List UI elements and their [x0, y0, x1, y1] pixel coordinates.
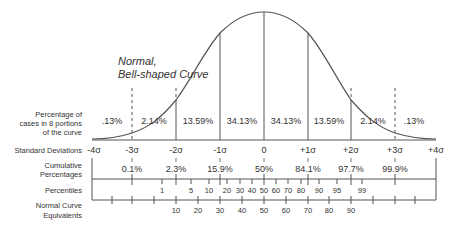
nce-label: 60 [282, 206, 290, 215]
nce-label: 50 [260, 206, 268, 215]
segment-pct: 13.59% [183, 116, 214, 126]
label-percentage-cases-2: cases in 8 portions [19, 119, 82, 128]
percentile-label: 70 [284, 186, 292, 195]
cumulative-pct: 99.9% [382, 164, 408, 174]
percentile-label: 95 [333, 186, 341, 195]
sd-label: -1σ [213, 145, 227, 155]
nce-label: 30 [216, 206, 224, 215]
sd-label: +3σ [387, 145, 403, 155]
nce-label: 70 [304, 206, 312, 215]
percentile-label: 1 [160, 186, 164, 195]
nce-label: 10 [172, 206, 180, 215]
segment-pct: .13% [404, 116, 425, 126]
segment-pct: 13.59% [314, 116, 345, 126]
nce-label: 80 [325, 206, 333, 215]
label-percentiles: Percentiles [45, 186, 82, 195]
label-standard-deviations: Standard Deviations [14, 146, 82, 155]
percentile-label: 60 [272, 186, 280, 195]
cumulative-pct: 50% [255, 164, 273, 174]
label-nce-2: Equivalents [43, 211, 82, 220]
percentile-label: 80 [297, 186, 305, 195]
cumulative-pct: 0.1% [122, 164, 143, 174]
percentile-label: 10 [205, 186, 213, 195]
label-percentage-cases-3: of the curve [43, 128, 82, 137]
cumulative-ticks [132, 158, 395, 162]
cumulative-pct: 15.9% [207, 164, 233, 174]
cumulative-pct: 84.1% [295, 164, 321, 174]
segment-pct: 34.13% [227, 116, 258, 126]
cumulative-pct: 97.7% [338, 164, 364, 174]
percentile-label: 20 [223, 186, 231, 195]
cumulative-pct: 2.3% [166, 164, 187, 174]
segment-pct: .13% [102, 116, 123, 126]
percentile-label: 90 [315, 186, 323, 195]
curve-title-line1: Normal, [118, 55, 157, 67]
sd-label: +1σ [300, 145, 316, 155]
curve-title-line2: Bell-shaped Curve [118, 68, 209, 80]
sd-label: 0 [261, 145, 266, 155]
normal-curve-diagram: Normal, Bell-shaped Curve Percentage of … [0, 0, 456, 229]
percentile-label: 99 [358, 186, 366, 195]
sd-label: -2σ [169, 145, 183, 155]
sd-label: +4σ [428, 145, 444, 155]
nce-label: 20 [194, 206, 202, 215]
segment-pct: 34.13% [271, 116, 302, 126]
sd-label: +2σ [343, 145, 359, 155]
percentile-minor-ticks [162, 179, 362, 184]
sd-label: -3σ [125, 145, 139, 155]
percentile-label: 5 [189, 186, 193, 195]
label-cumulative-1: Cumulative [44, 161, 82, 170]
percentile-label: 50 [260, 186, 268, 195]
segment-pct: 2.14% [141, 116, 167, 126]
nce-label: 40 [238, 206, 246, 215]
nce-label: 90 [347, 206, 355, 215]
percentile-label: 40 [248, 186, 256, 195]
label-nce-1: Normal Curve [36, 201, 82, 210]
sd-label: -4σ [87, 145, 101, 155]
segment-pct: 2.14% [360, 116, 386, 126]
label-percentage-cases-1: Percentage of [35, 110, 83, 119]
label-cumulative-2: Percentages [40, 170, 82, 179]
percentile-label: 30 [236, 186, 244, 195]
